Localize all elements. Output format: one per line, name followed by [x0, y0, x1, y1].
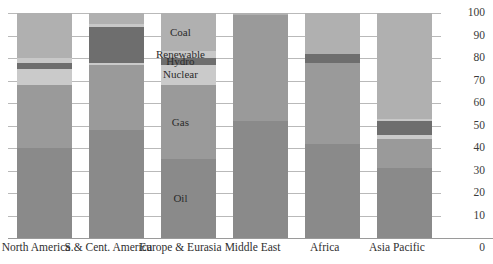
- segment-nuclear[interactable]: [161, 65, 216, 85]
- gridline-80: [8, 58, 441, 59]
- gridline-60: [8, 103, 441, 104]
- segment-coal[interactable]: [89, 13, 144, 24]
- x-label-asia-pacific: Asia Pacific: [346, 242, 448, 254]
- y-tick-60: 60: [441, 97, 485, 109]
- segment-hydro[interactable]: [305, 54, 360, 63]
- y-tick-30: 30: [441, 165, 485, 177]
- segment-gas[interactable]: [161, 85, 216, 159]
- bar-north-america[interactable]: [17, 13, 72, 238]
- segment-coal[interactable]: [377, 13, 432, 119]
- y-tick-50: 50: [441, 120, 485, 132]
- gridline-100: [8, 13, 441, 14]
- bar-africa[interactable]: [305, 13, 360, 238]
- bar-middle-east[interactable]: [233, 13, 288, 238]
- y-tick-40: 40: [441, 142, 485, 154]
- segment-gas[interactable]: [305, 63, 360, 144]
- segment-oil[interactable]: [305, 144, 360, 239]
- gridline-50: [8, 126, 441, 127]
- segment-hydro[interactable]: [89, 27, 144, 63]
- segment-hydro[interactable]: [161, 58, 216, 65]
- bar-s-cent-america[interactable]: [89, 13, 144, 238]
- segment-oil[interactable]: [17, 148, 72, 238]
- stacked-bar-chart: 1009080706050403020100 North AmericaS.& …: [0, 0, 493, 264]
- y-tick-10: 10: [441, 210, 485, 222]
- segment-renewable[interactable]: [161, 51, 216, 58]
- gridline-20: [8, 193, 441, 194]
- segment-gas[interactable]: [89, 65, 144, 130]
- y-tick-20: 20: [441, 187, 485, 199]
- bar-asia-pacific[interactable]: [377, 13, 432, 238]
- segment-gas[interactable]: [233, 15, 288, 121]
- gridline-90: [8, 36, 441, 37]
- gridline-40: [8, 148, 441, 149]
- plot-area: [8, 13, 441, 238]
- y-tick-90: 90: [441, 30, 485, 42]
- segment-oil[interactable]: [161, 159, 216, 238]
- y-tick-100: 100: [441, 7, 485, 19]
- gridline-70: [8, 81, 441, 82]
- y-tick-80: 80: [441, 52, 485, 64]
- gridline-30: [8, 171, 441, 172]
- x-axis-category-labels: North AmericaS.& Cent. AmericaEurope & E…: [0, 242, 493, 264]
- y-axis-tick-labels: 1009080706050403020100: [441, 0, 493, 264]
- segment-oil[interactable]: [233, 121, 288, 238]
- segment-coal[interactable]: [17, 13, 72, 58]
- gridline-10: [8, 216, 441, 217]
- y-tick-70: 70: [441, 75, 485, 87]
- segment-coal[interactable]: [305, 13, 360, 54]
- segment-gas[interactable]: [377, 139, 432, 168]
- x-axis-line: [8, 238, 493, 239]
- segment-gas[interactable]: [17, 85, 72, 148]
- segment-coal[interactable]: [161, 13, 216, 51]
- bar-europe-eurasia[interactable]: [161, 13, 216, 238]
- segment-nuclear[interactable]: [17, 69, 72, 85]
- segment-oil[interactable]: [89, 130, 144, 238]
- segment-hydro[interactable]: [17, 63, 72, 70]
- segment-oil[interactable]: [377, 168, 432, 238]
- segment-hydro[interactable]: [377, 121, 432, 135]
